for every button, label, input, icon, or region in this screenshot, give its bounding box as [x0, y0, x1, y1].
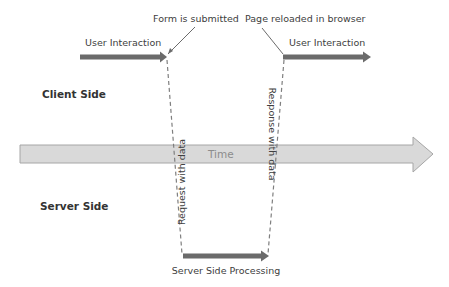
- user-interaction-left-label: User Interaction: [85, 37, 161, 48]
- time-label: Time: [207, 148, 234, 160]
- page-reloaded-label: Page reloaded in browser: [245, 13, 366, 24]
- user-interaction-arrow-right: [283, 52, 371, 63]
- request-response-diagram: Form is submitted Page reloaded in brows…: [0, 0, 449, 287]
- server-processing-arrow: [183, 251, 269, 262]
- page-reloaded-pointer: [262, 28, 283, 54]
- server-side-label: Server Side: [40, 200, 108, 212]
- server-processing-label: Server Side Processing: [172, 265, 280, 276]
- user-interaction-arrow-left: [80, 52, 167, 63]
- client-side-label: Client Side: [42, 88, 106, 100]
- form-submitted-pointer: [168, 27, 195, 54]
- user-interaction-right-label: User Interaction: [289, 37, 365, 48]
- response-label: Response with data: [267, 87, 278, 180]
- form-submitted-label: Form is submitted: [153, 13, 239, 24]
- request-label: Request with data: [176, 139, 187, 225]
- form-submitted-pointer-head: [168, 48, 173, 54]
